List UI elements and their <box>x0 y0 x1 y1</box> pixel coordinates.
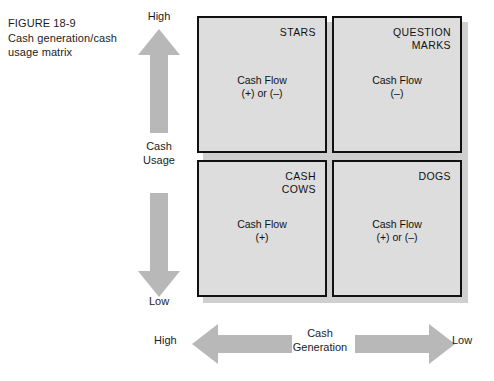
quadrant-dogs-body: Cash Flow (+) or (–) <box>334 218 460 244</box>
horizontal-axis-high-label: High <box>154 334 177 346</box>
quadrant-dogs[interactable]: DOGS Cash Flow (+) or (–) <box>332 160 462 297</box>
quadrant-question-marks-title: QUESTION MARKS <box>393 26 451 52</box>
matrix-grid: STARS Cash Flow (+) or (–) QUESTION MARK… <box>197 16 462 297</box>
vertical-axis-label: Cash Usage <box>124 139 194 167</box>
figure-title-line-2: usage matrix <box>8 45 138 60</box>
vertical-axis: High Cash Usage Low <box>124 10 194 310</box>
vertical-axis-high-label: High <box>124 10 194 22</box>
quadrant-dogs-title: DOGS <box>418 170 451 183</box>
quadrant-cash-cows-title: CASH COWS <box>282 170 316 196</box>
quadrant-stars[interactable]: STARS Cash Flow (+) or (–) <box>197 16 327 153</box>
arrow-down-icon <box>138 193 180 297</box>
quadrant-cash-cows-body: Cash Flow (+) <box>199 218 325 244</box>
quadrant-question-marks[interactable]: QUESTION MARKS Cash Flow (–) <box>332 16 462 153</box>
figure-container: FIGURE 18‑9 Cash generation/cash usage m… <box>0 0 494 381</box>
horizontal-axis: High Cash Generation Low <box>140 322 494 368</box>
quadrant-cash-cows[interactable]: CASH COWS Cash Flow (+) <box>197 160 327 297</box>
quadrant-stars-title: STARS <box>280 26 316 39</box>
arrow-up-icon <box>138 29 180 133</box>
arrow-right-icon <box>355 324 455 364</box>
vertical-axis-low-label: Low <box>124 295 194 307</box>
figure-caption: FIGURE 18‑9 Cash generation/cash usage m… <box>8 16 138 60</box>
figure-number: FIGURE 18‑9 <box>8 16 138 31</box>
horizontal-axis-low-label: Low <box>452 334 472 346</box>
quadrant-question-marks-body: Cash Flow (–) <box>334 74 460 100</box>
horizontal-axis-label: Cash Generation <box>285 326 355 354</box>
quadrant-stars-body: Cash Flow (+) or (–) <box>199 74 325 100</box>
arrow-left-icon <box>192 324 292 364</box>
figure-title-line-1: Cash generation/cash <box>8 31 138 46</box>
